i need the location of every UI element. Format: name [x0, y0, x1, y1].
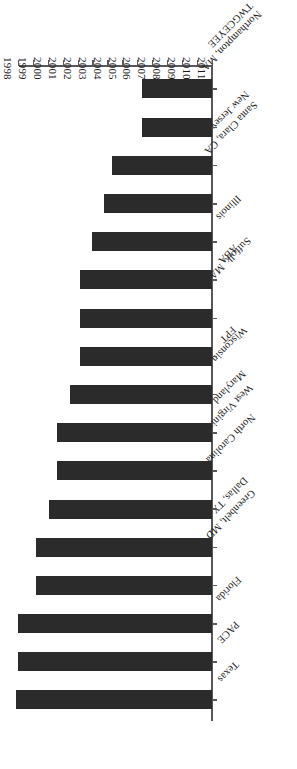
value-tick [107, 60, 108, 66]
category-tick-label: Texas [216, 659, 241, 684]
category-tick [212, 356, 217, 358]
bar [80, 270, 212, 289]
category-tick [212, 508, 217, 510]
category-tick [212, 394, 217, 396]
bar-row: North Carolina [0, 490, 212, 528]
bar [92, 232, 212, 251]
value-tick [152, 60, 153, 66]
category-tick [212, 699, 217, 701]
category-tick [212, 127, 217, 129]
bar-row: Suffolk, MA [0, 299, 212, 337]
value-tick [63, 60, 64, 66]
bar-rows-container: TexasPACEFloridaGreenbelt, MDDallas, TXN… [0, 69, 212, 719]
value-tick [33, 60, 34, 66]
category-tick [212, 318, 217, 320]
value-tick-label: 1998 [2, 57, 14, 80]
bar-row: PACE [0, 643, 212, 681]
value-tick [78, 60, 79, 66]
bar [142, 118, 212, 137]
category-tick [212, 432, 217, 434]
bar-row: Greenbelt, MD [0, 566, 212, 604]
category-tick [212, 623, 217, 625]
category-tick [212, 203, 217, 205]
chart-plot-area: TexasPACEFloridaGreenbelt, MDDallas, TXN… [0, 0, 297, 769]
category-tick [212, 241, 217, 243]
bar [36, 576, 212, 595]
bar-row: Northampton, MA [0, 108, 212, 146]
bar-row: Florida [0, 604, 212, 642]
bar [16, 691, 212, 710]
bar-row: ABA [0, 261, 212, 299]
bar [18, 652, 212, 671]
bar-row: Illinois [0, 223, 212, 261]
category-tick-label: PACE [215, 619, 241, 645]
bar-row: Dallas, TX [0, 528, 212, 566]
category-tick [212, 585, 217, 587]
bar-row: West Virginia [0, 452, 212, 490]
bar-row: New Jersey [0, 146, 212, 184]
value-tick [48, 60, 49, 66]
category-tick [212, 470, 217, 472]
bar [18, 614, 212, 633]
category-tick [212, 279, 217, 281]
value-tick [122, 60, 123, 66]
value-tick [137, 60, 138, 66]
value-tick [167, 60, 168, 66]
bar [49, 500, 212, 519]
bar [80, 309, 212, 328]
value-tick [18, 60, 19, 66]
bar-row: FPT [0, 337, 212, 375]
bar [36, 538, 212, 557]
value-tick [212, 60, 213, 66]
category-tick-label: Illinois [214, 193, 243, 222]
value-axis-ticks: 2011201020092008200720062005200420032002… [13, 6, 213, 66]
rotated-bar-chart-figure: TexasPACEFloridaGreenbelt, MDDallas, TXN… [0, 0, 297, 769]
value-tick [197, 60, 198, 66]
bar-row: Santa Clara, CA [0, 184, 212, 222]
bar [80, 347, 212, 366]
category-tick [212, 661, 217, 663]
value-tick [182, 60, 183, 66]
bar [112, 156, 212, 175]
category-tick-label: Florida [214, 574, 244, 604]
category-tick [212, 165, 217, 167]
value-tick [92, 60, 93, 66]
bar [70, 385, 212, 404]
bar [57, 461, 212, 480]
bar-row: Wisconsin [0, 375, 212, 413]
category-tick [212, 88, 217, 90]
bar [142, 80, 212, 99]
bar [104, 194, 212, 213]
bar [57, 423, 212, 442]
category-tick [212, 547, 217, 549]
bar-row: Texas [0, 681, 212, 719]
bar-row: Maryland [0, 414, 212, 452]
